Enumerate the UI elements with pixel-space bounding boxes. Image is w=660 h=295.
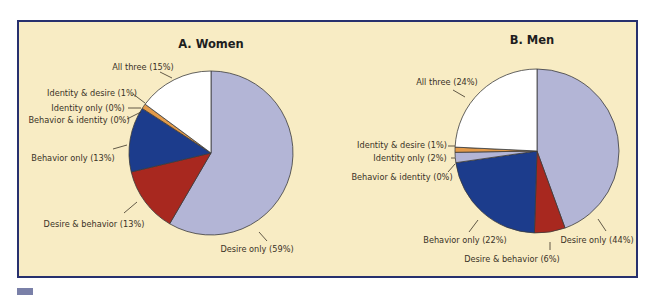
label-women-all-three: All three (15%) [112,62,174,72]
label-women-identity-desire: Identity & desire (1%) [47,88,137,98]
label-women-desire-only: Desire only (59%) [220,244,293,254]
label-men-identity-desire: Identity & desire (1%) [357,140,447,150]
chart-title-women: A. Women [178,37,244,51]
label-women-behavior-identity: Behavior & identity (0%) [28,115,129,125]
pie-men [455,69,619,233]
label-men-behavior-only: Behavior only (22%) [423,235,506,245]
label-men-behavior-identity: Behavior & identity (0%) [351,172,452,182]
charts-svg: A. Women All three (15%) Identity & desi… [0,0,660,295]
label-women-identity-only: Identity only (0%) [51,103,124,113]
label-men-desire-only: Desire only (44%) [560,235,633,245]
chart-title-men: B. Men [510,33,555,47]
label-women-desire-behavior: Desire & behavior (13%) [44,219,145,229]
label-men-desire-behavior: Desire & behavior (6%) [464,254,560,264]
pie-women [129,71,293,235]
label-women-behavior-only: Behavior only (13%) [31,153,114,163]
slice-behavior-only [456,151,537,233]
label-men-identity-only: Identity only (2%) [373,153,446,163]
label-men-all-three: All three (24%) [416,77,478,87]
